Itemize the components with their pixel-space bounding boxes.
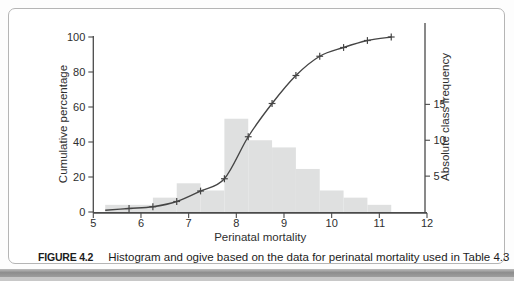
left-axis-title: Cumulative percentage <box>57 65 69 183</box>
histogram-bar <box>201 190 225 212</box>
figure-caption: FIGURE 4.2Histogram and ogive based on t… <box>38 247 498 265</box>
ogive-marker-plus <box>340 44 347 51</box>
x-tick-label: 10 <box>326 217 338 229</box>
histogram-bar <box>224 119 248 212</box>
x-axis-title: Perinatal mortality <box>214 231 306 243</box>
right-axis: 51015Absolute class frequency <box>425 23 451 212</box>
x-tick-label: 7 <box>186 217 192 229</box>
figure-caption-text: Histogram and ogive based on the data fo… <box>108 251 509 263</box>
histogram-bar <box>248 140 272 212</box>
histogram-bar <box>367 205 391 212</box>
left-axis: 020406080100Cumulative percentage <box>57 31 93 218</box>
ogive-marker-plus <box>364 37 371 44</box>
ogive-marker-plus <box>316 53 323 60</box>
right-axis-title: Absolute class frequency <box>439 53 451 181</box>
left-tick-label: 40 <box>73 136 85 148</box>
histogram-bar <box>344 198 368 212</box>
left-tick-label: 100 <box>67 31 85 43</box>
x-tick-label: 11 <box>374 217 385 229</box>
page-background: 56789101112Perinatal mortality0204060801… <box>0 0 514 281</box>
page-bottom-edge-light <box>0 277 514 281</box>
x-axis: 56789101112Perinatal mortality <box>90 213 433 243</box>
histogram-bar <box>272 147 296 212</box>
ogive-marker-plus <box>388 34 395 41</box>
left-tick-label: 20 <box>73 171 85 183</box>
left-tick-label: 0 <box>79 206 85 218</box>
left-tick-label: 80 <box>73 66 85 78</box>
x-tick-label: 8 <box>233 217 239 229</box>
x-tick-label: 5 <box>90 217 96 229</box>
page-bottom-edge <box>0 269 514 277</box>
histogram-bars <box>105 119 391 212</box>
x-tick-label: 6 <box>138 217 144 229</box>
histogram-ogive-chart: 56789101112Perinatal mortality0204060801… <box>0 0 514 281</box>
figure-caption-label: FIGURE 4.2 <box>38 251 93 263</box>
histogram-bar <box>296 169 320 212</box>
x-tick-label: 12 <box>421 217 433 229</box>
histogram-bar <box>320 190 344 212</box>
histogram-bar <box>177 183 201 212</box>
x-tick-label: 9 <box>281 217 287 229</box>
left-tick-label: 60 <box>73 101 85 113</box>
